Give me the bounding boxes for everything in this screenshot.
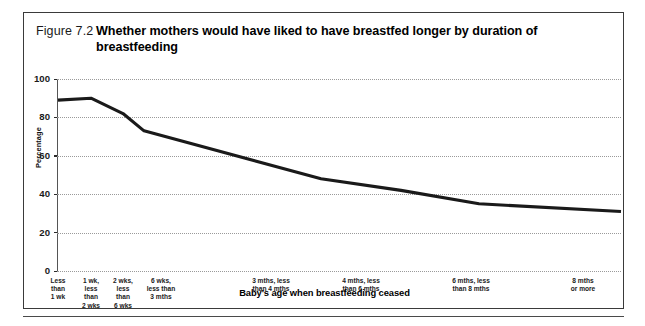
bottom-divider bbox=[23, 316, 624, 317]
gridline bbox=[57, 271, 621, 272]
y-tick-mark bbox=[54, 194, 57, 195]
y-tick-label: 40 bbox=[22, 188, 50, 199]
x-axis-title: Baby's age when breastfeeding ceased bbox=[24, 287, 625, 298]
y-tick-label: 60 bbox=[22, 150, 50, 161]
gridline bbox=[57, 156, 621, 157]
y-tick-label: 80 bbox=[22, 111, 50, 122]
y-tick-label: 20 bbox=[22, 227, 50, 238]
y-tick-mark bbox=[54, 117, 57, 118]
y-tick-label: 100 bbox=[22, 73, 50, 84]
y-tick-mark bbox=[54, 271, 57, 272]
gridline bbox=[57, 117, 621, 118]
gridline bbox=[57, 233, 621, 234]
figure-page: Figure 7.2 Whether mothers would have li… bbox=[0, 0, 645, 326]
chart-plot-area: Percentage 100806040200 Less than 1 wk1 … bbox=[24, 13, 625, 310]
figure-frame: Figure 7.2 Whether mothers would have li… bbox=[23, 12, 624, 309]
gridline bbox=[57, 194, 621, 195]
y-axis-line bbox=[57, 79, 58, 271]
y-tick-label: 0 bbox=[22, 265, 50, 276]
y-tick-mark bbox=[54, 79, 57, 80]
line-series bbox=[24, 13, 625, 310]
gridline bbox=[57, 79, 621, 80]
y-tick-mark bbox=[54, 155, 57, 156]
y-tick-mark bbox=[54, 232, 57, 233]
